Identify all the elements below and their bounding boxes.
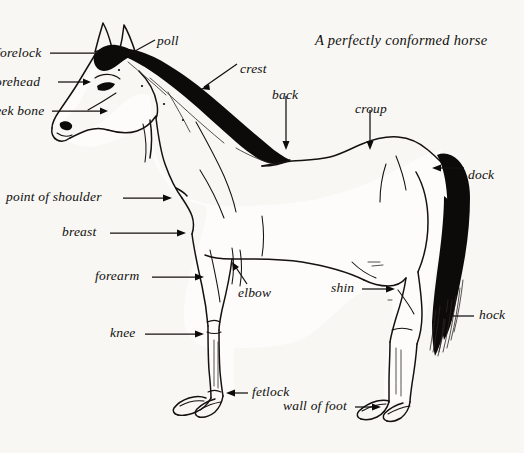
label-hock: hock [479, 308, 505, 322]
label-shin: shin [331, 281, 354, 295]
label-knee: knee [110, 326, 136, 340]
label-point-of-shoulder: point of shoulder [6, 190, 102, 204]
label-poll: poll [157, 34, 179, 48]
label-croup: croup [355, 102, 387, 116]
label-breast: breast [62, 225, 96, 239]
horse-conformation-diagram: A perfectly conformed horse poll foreloc… [0, 0, 524, 453]
label-back: back [272, 88, 298, 102]
label-wall-of-foot: wall of foot [283, 399, 347, 413]
label-forearm: forearm [95, 269, 139, 283]
figure-title: A perfectly conformed horse [315, 32, 488, 49]
label-dock: dock [468, 168, 494, 182]
label-forelock: forelock [0, 46, 41, 60]
label-elbow: elbow [238, 286, 271, 300]
label-forehead: forehead [0, 75, 40, 89]
label-crest: crest [240, 62, 267, 76]
horse-body-shape [56, 62, 448, 402]
label-fetlock: fetlock [252, 385, 289, 399]
label-cheek-bone: cheek bone [0, 104, 44, 118]
